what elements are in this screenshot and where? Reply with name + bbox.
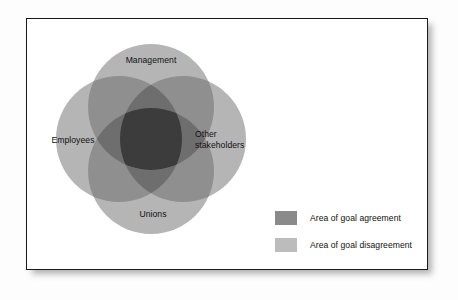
legend-label-agreement: Area of goal agreement (310, 213, 401, 223)
legend: Area of goal agreement Area of goal disa… (275, 211, 425, 265)
legend-label-disagreement: Area of goal disagreement (310, 240, 412, 250)
figure-frame: Management Employees Other stakeholders … (26, 18, 428, 270)
legend-item-agreement: Area of goal agreement (275, 211, 425, 225)
legend-item-disagreement: Area of goal disagreement (275, 238, 425, 252)
legend-swatch-disagreement (275, 238, 297, 252)
legend-swatch-agreement (275, 211, 297, 225)
page-canvas: Management Employees Other stakeholders … (0, 0, 458, 300)
